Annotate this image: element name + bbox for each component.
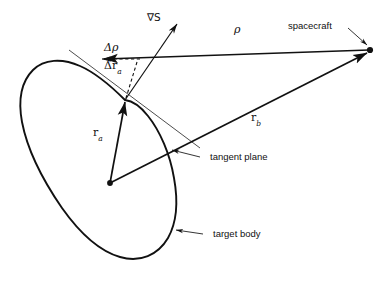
delta-r-a-subscript: a — [117, 67, 121, 76]
grad-s-label: ∇S — [147, 12, 161, 23]
r-a-vector — [110, 102, 125, 183]
delta-r-a-label: Δra — [104, 60, 122, 74]
rho-label: ρ — [234, 24, 240, 35]
grad-s-vector — [125, 24, 177, 100]
delta-r-a-symbol: Δr — [104, 59, 117, 72]
tangent-plane-leader-line — [172, 150, 200, 157]
delta-ra-dashed-vertical — [126, 62, 137, 98]
spacecraft-point-marker — [367, 47, 373, 53]
r-a-subscript: a — [98, 134, 102, 143]
diagram-vector-layer — [0, 0, 382, 287]
target-body-leader-line — [176, 230, 203, 234]
spacecraft-leader-line — [348, 28, 367, 45]
delta-rho-label: Δρ — [104, 42, 118, 53]
r-a-label: ra — [93, 127, 103, 141]
tangent-plane-label: tangent plane — [210, 152, 268, 162]
tangent-plane-line — [69, 50, 200, 148]
rho-vector — [104, 50, 369, 59]
target-body-label: target body — [213, 229, 261, 239]
spacecraft-label: spacecraft — [288, 21, 332, 31]
r-b-label: rb — [251, 112, 261, 126]
diagram-canvas: ∇S Δρ Δra ρ ra rb spacecraft tangent pla… — [0, 0, 382, 287]
body-center-point-marker — [107, 180, 113, 186]
r-b-subscript: b — [256, 119, 261, 128]
target-body-outline — [20, 61, 176, 259]
